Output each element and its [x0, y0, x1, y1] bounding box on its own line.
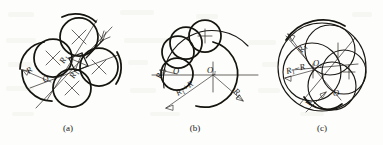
figure-b-caption: (b) [190, 123, 201, 133]
figure-a-caption: (a) [63, 123, 73, 133]
figure-b-label-O: O [173, 66, 179, 76]
figure-c-label-O: O [333, 88, 339, 98]
figure-plate: R O R1 R1 (a) [0, 0, 383, 145]
figure-c-caption: (c) [317, 123, 327, 133]
